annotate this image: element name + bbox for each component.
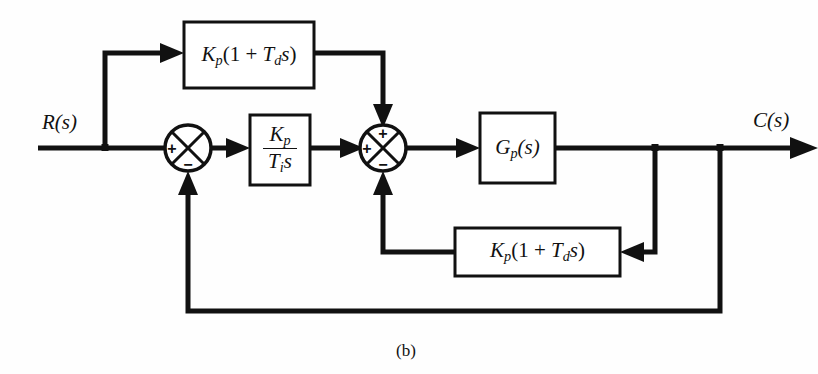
diagram-canvas bbox=[0, 0, 818, 374]
ff-gain: K bbox=[201, 42, 215, 66]
fb-var: s bbox=[570, 238, 578, 262]
wire-output-branch-inner bbox=[620, 144, 659, 262]
integral-den-var: s bbox=[284, 149, 292, 173]
wire-feedforward-to-junction2 bbox=[314, 53, 393, 128]
ff-gain-subscript: p bbox=[216, 52, 223, 68]
integral-num-subscript: p bbox=[283, 132, 290, 148]
integral-block-label: Kp Tis bbox=[250, 124, 310, 175]
ff-var: s bbox=[281, 42, 289, 66]
fb-gain: K bbox=[490, 238, 504, 262]
ff-open-paren: (1 + bbox=[223, 42, 263, 66]
wire-junction2-to-plant bbox=[406, 138, 480, 158]
input-signal-label: R(s) bbox=[42, 112, 77, 133]
integral-denominator: Tis bbox=[263, 149, 297, 174]
wire-integral-to-junction2 bbox=[310, 138, 364, 158]
fb-term: T bbox=[551, 238, 563, 262]
wire-junction1-to-integral bbox=[211, 138, 250, 158]
ff-term: T bbox=[262, 42, 274, 66]
feedforward-derivative-block-label: Kp(1 + Tds) bbox=[184, 44, 314, 67]
junction2-top-sign: + bbox=[376, 126, 390, 142]
junction1-left-sign: + bbox=[165, 141, 179, 157]
junction2-bottom-sign: − bbox=[376, 157, 390, 173]
wire-plant-to-output bbox=[555, 137, 818, 159]
plant-block-label: Gp(s) bbox=[480, 137, 555, 160]
integral-fraction: Kp Tis bbox=[263, 124, 297, 175]
output-signal-label: C(s) bbox=[753, 110, 789, 131]
integral-num-gain: K bbox=[269, 122, 283, 146]
plant-arg: (s) bbox=[518, 135, 540, 159]
feedback-derivative-block-label: Kp(1 + Tds) bbox=[455, 240, 620, 263]
fb-term-subscript: d bbox=[563, 248, 570, 264]
integral-numerator: Kp bbox=[263, 124, 297, 149]
fb-close-paren: ) bbox=[578, 238, 585, 262]
fb-open-paren: (1 + bbox=[511, 238, 551, 262]
block-diagram-figure: R(s) C(s) Kp(1 + Tds) Kp Tis Gp(s) Kp(1 … bbox=[0, 0, 818, 374]
junction1-bottom-sign: − bbox=[181, 157, 195, 173]
wire-feedback-to-junction2 bbox=[373, 171, 455, 252]
integral-den-gain: T bbox=[268, 149, 280, 173]
ff-close-paren: ) bbox=[290, 42, 297, 66]
plant-gain-subscript: p bbox=[510, 145, 517, 161]
plant-gain: G bbox=[495, 135, 510, 159]
figure-caption: (b) bbox=[396, 342, 416, 359]
junction2-left-sign: + bbox=[360, 141, 374, 157]
